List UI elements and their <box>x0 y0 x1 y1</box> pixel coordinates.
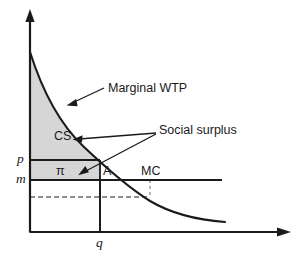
social-surplus-label: Social surplus <box>159 124 237 137</box>
social-surplus-leader-line-cs <box>79 133 156 139</box>
x-axis-arrowhead <box>277 227 291 236</box>
marginal-cost-label: MC <box>141 165 160 178</box>
diagram-canvas <box>0 0 302 257</box>
marginal-wtp-leader-line <box>72 88 104 103</box>
marginal-wtp-label: Marginal WTP <box>108 82 187 95</box>
price-axis-label: p <box>17 152 24 166</box>
producer-surplus-region <box>30 160 100 180</box>
economics-diagram: Marginal WTP Social surplus CS π A MC p … <box>0 0 302 257</box>
point-a-label: A <box>103 165 111 178</box>
profit-label: π <box>56 165 65 178</box>
consumer-surplus-region <box>30 52 100 160</box>
y-axis-arrowhead <box>25 9 34 22</box>
lower-box-outline <box>30 180 100 232</box>
cost-axis-label: m <box>16 172 26 186</box>
quantity-axis-label: q <box>96 236 103 250</box>
marginal-wtp-arrowhead <box>67 99 78 106</box>
consumer-surplus-label: CS <box>54 130 71 143</box>
